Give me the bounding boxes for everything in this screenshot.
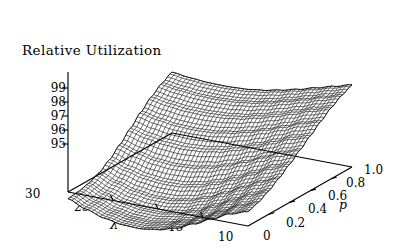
surface-plot-canvas [0, 0, 399, 251]
figure-3d-surface-plot: Relative Utilization 99 98 97 96 95 30 2… [0, 0, 399, 251]
surface-mesh [68, 72, 352, 230]
